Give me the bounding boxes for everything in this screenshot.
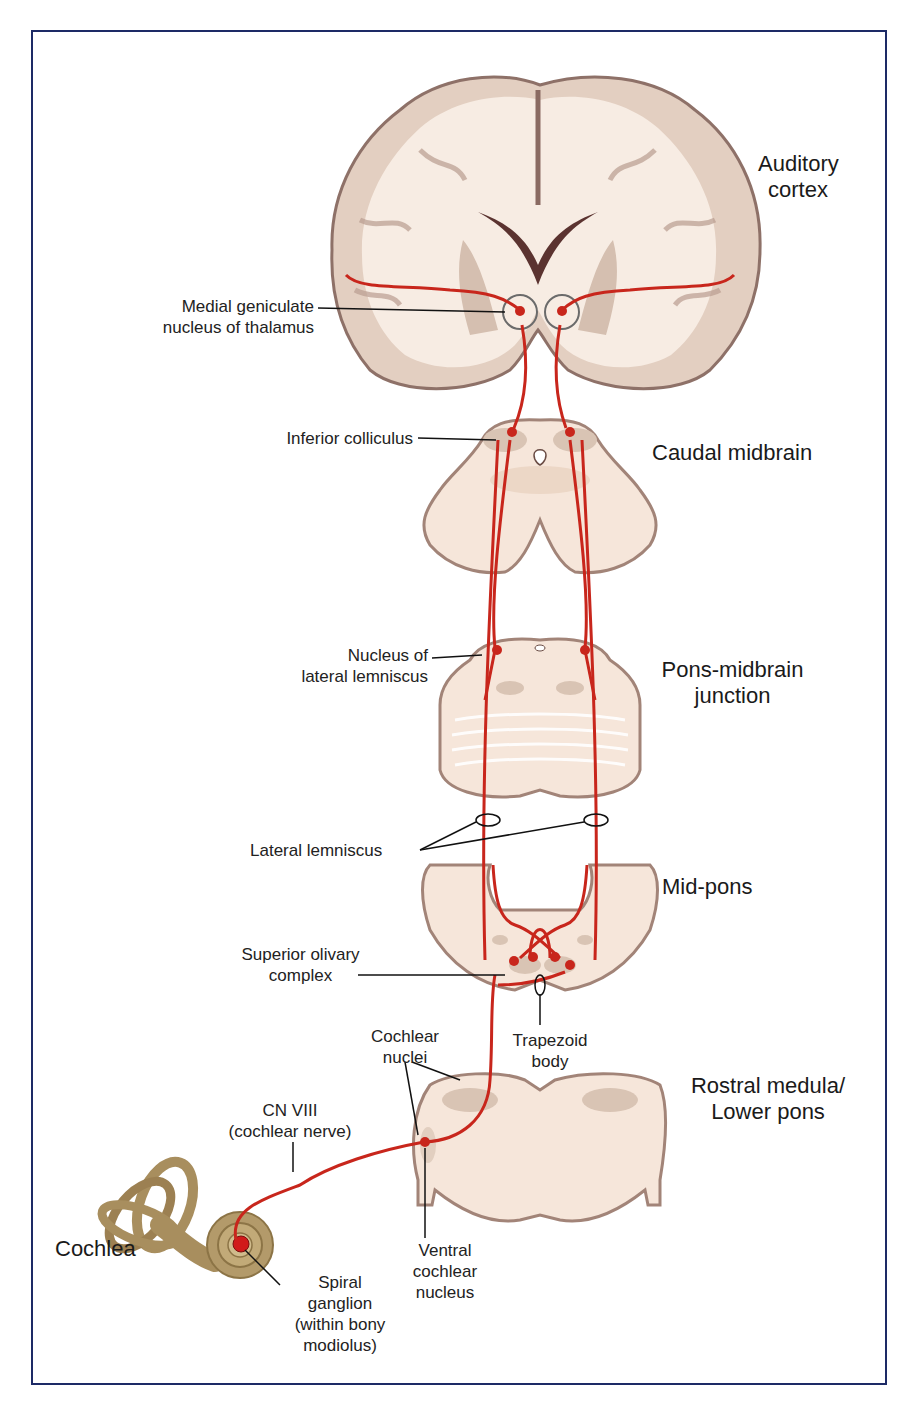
label-line: cochlear (395, 1261, 495, 1282)
label-line: Cochlear (360, 1026, 450, 1047)
label-line: Nucleus of (250, 645, 428, 666)
label-line: ganglion (280, 1293, 400, 1314)
label-line: Rostral medula/ (668, 1073, 868, 1099)
mid-pons-section (423, 865, 658, 990)
label-line: nuclei (360, 1047, 450, 1068)
label-rostral-medulla: Rostral medula/ Lower pons (668, 1073, 868, 1125)
label-line: Medial geniculate (110, 296, 314, 317)
caudal-midbrain-section (424, 420, 656, 573)
label-line: Ventral (395, 1240, 495, 1261)
label-cochlear-nuclei: Cochlear nuclei (360, 1026, 450, 1068)
label-text: Lateral lemniscus (250, 841, 382, 860)
label-superior-olivary-complex: Superior olivary complex (228, 944, 373, 986)
brain-coronal-section (332, 77, 760, 389)
label-line: junction (640, 683, 825, 709)
label-text: Caudal midbrain (652, 440, 812, 465)
label-line: (cochlear nerve) (215, 1121, 365, 1142)
rostral-medulla-section (414, 1074, 666, 1221)
label-text: Mid-pons (662, 874, 752, 899)
label-cochlea: Cochlea (55, 1236, 136, 1262)
label-auditory-cortex: Auditory cortex (758, 151, 838, 203)
label-line: Lower pons (668, 1099, 868, 1125)
label-spiral-ganglion: Spiral ganglion (within bony modiolus) (280, 1272, 400, 1356)
label-line: (within bony (280, 1314, 400, 1335)
label-medial-geniculate: Medial geniculate nucleus of thalamus (110, 296, 314, 338)
label-cn-viii: CN VIII (cochlear nerve) (215, 1100, 365, 1142)
label-line: Trapezoid (505, 1030, 595, 1051)
label-line: lateral lemniscus (250, 666, 428, 687)
label-lateral-lemniscus: Lateral lemniscus (250, 840, 382, 861)
label-line: Auditory (758, 151, 838, 177)
pons-midbrain-junction-section (440, 639, 640, 797)
label-ventral-cochlear-nucleus: Ventral cochlear nucleus (395, 1240, 495, 1303)
label-line: body (505, 1051, 595, 1072)
label-caudal-midbrain: Caudal midbrain (652, 440, 812, 466)
label-line: nucleus of thalamus (110, 317, 314, 338)
label-line: complex (228, 965, 373, 986)
label-line: Superior olivary (228, 944, 373, 965)
label-inferior-colliculus: Inferior colliculus (230, 428, 413, 449)
label-pons-midbrain-junction: Pons-midbrain junction (640, 657, 825, 709)
label-nucleus-lateral-lemniscus: Nucleus of lateral lemniscus (250, 645, 428, 687)
label-line: Spiral (280, 1272, 400, 1293)
label-line: CN VIII (215, 1100, 365, 1121)
label-text: Cochlea (55, 1236, 136, 1261)
lateral-lemniscus-marker-left (476, 814, 500, 826)
label-text: Inferior colliculus (286, 429, 413, 448)
label-trapezoid-body: Trapezoid body (505, 1030, 595, 1072)
label-mid-pons: Mid-pons (662, 874, 752, 900)
label-line: modiolus) (280, 1335, 400, 1356)
label-line: Pons-midbrain (640, 657, 825, 683)
label-line: nucleus (395, 1282, 495, 1303)
label-line: cortex (758, 177, 838, 203)
